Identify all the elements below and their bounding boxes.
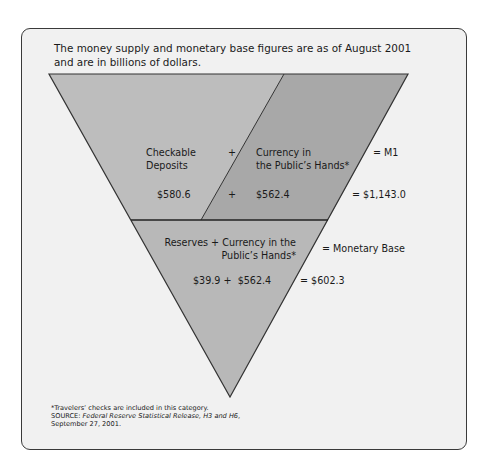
intro-text: The money supply and monetary base figur… bbox=[54, 41, 411, 69]
checkable-deposits-value: $580.6 bbox=[157, 188, 191, 201]
plus-sign-values: + bbox=[228, 188, 236, 201]
footnote-date: September 27, 2001. bbox=[51, 420, 240, 428]
source-prefix: SOURCE: bbox=[51, 412, 83, 420]
currency-label-line-2: the Public’s Hands* bbox=[256, 159, 349, 172]
footnote: *Travelers’ checks are included in this … bbox=[51, 404, 240, 428]
checkable-label-line-2: Deposits bbox=[146, 159, 196, 172]
plus-sign-labels: + bbox=[228, 146, 236, 159]
checkable-deposits-label: Checkable Deposits bbox=[146, 146, 196, 172]
monetary-base-label: Reserves + Currency in the Public’s Hand… bbox=[158, 236, 296, 262]
base-label-line-1: Reserves + Currency in the bbox=[158, 236, 296, 249]
footnote-source: SOURCE: Federal Reserve Statistical Rele… bbox=[51, 412, 240, 420]
monetary-base-value: = $602.3 bbox=[300, 274, 345, 287]
base-label-line-2: Public’s Hands* bbox=[158, 249, 296, 262]
currency-label: Currency in the Public’s Hands* bbox=[256, 146, 349, 172]
footnote-travelers-checks: *Travelers’ checks are included in this … bbox=[51, 404, 240, 412]
m1-value: = $1,143.0 bbox=[352, 188, 406, 201]
intro-line-2: and are in billions of dollars. bbox=[54, 55, 411, 69]
currency-label-line-1: Currency in bbox=[256, 146, 349, 159]
monetary-base-result-label: = Monetary Base bbox=[322, 242, 405, 255]
m1-label: = M1 bbox=[373, 146, 398, 159]
monetary-base-values: $39.9 + $562.4 bbox=[193, 274, 271, 287]
intro-line-1: The money supply and monetary base figur… bbox=[54, 41, 411, 55]
currency-value: $562.4 bbox=[256, 188, 290, 201]
source-suffix: , bbox=[238, 412, 240, 420]
checkable-label-line-1: Checkable bbox=[146, 146, 196, 159]
source-title: Federal Reserve Statistical Release, H3 … bbox=[83, 412, 239, 420]
